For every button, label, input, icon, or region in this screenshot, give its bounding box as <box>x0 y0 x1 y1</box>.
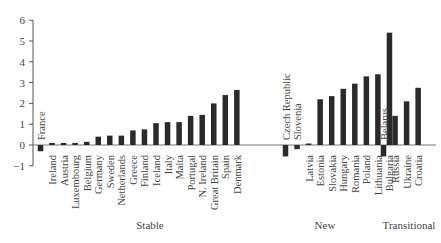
y-tick-label: 0 <box>20 139 26 151</box>
y-tick-label: −1 <box>13 160 25 172</box>
y-tick-label: 1 <box>20 118 26 130</box>
category-label: Belgium <box>82 155 93 191</box>
bar <box>38 145 44 151</box>
bar <box>211 103 217 145</box>
category-label: Sweden <box>105 154 116 188</box>
bar <box>49 143 55 145</box>
category-label: Slovakia <box>327 155 338 192</box>
category-label: Ukraine <box>402 155 413 189</box>
y-tick-label: 3 <box>20 77 26 89</box>
y-tick-label: 5 <box>20 35 26 47</box>
bar <box>392 116 398 145</box>
category-label: N. Ireland <box>197 154 208 197</box>
bar-chart: −10123456FranceIrelandAustriaLuxembourgB… <box>0 0 441 243</box>
bar <box>107 136 113 145</box>
bar <box>153 123 159 145</box>
category-label: Austria <box>59 155 70 186</box>
bar <box>119 136 125 145</box>
category-label: Italy <box>163 154 174 174</box>
bar <box>165 122 171 145</box>
category-label: France <box>36 111 47 140</box>
bar <box>176 122 182 145</box>
bar <box>364 76 370 145</box>
bar <box>84 142 90 145</box>
category-label: Netherlands <box>116 155 127 206</box>
bar <box>352 84 358 145</box>
bar <box>283 145 289 156</box>
category-label: Hungary <box>338 154 349 191</box>
category-label: Russia <box>390 155 401 183</box>
bar <box>317 99 323 145</box>
bar <box>130 130 136 145</box>
group-label: Stable <box>136 219 164 231</box>
category-label: Germany <box>93 154 104 194</box>
y-tick-label: 6 <box>20 14 26 26</box>
category-label: Spain <box>220 154 231 179</box>
category-label: Croatia <box>413 155 424 186</box>
bar <box>294 145 300 149</box>
bar <box>61 143 67 145</box>
category-label: Lithuania <box>373 155 384 196</box>
category-label: Poland <box>361 154 372 184</box>
y-tick-label: 2 <box>20 97 26 109</box>
bar <box>306 144 312 146</box>
bar <box>234 90 240 145</box>
bar <box>142 129 148 145</box>
category-label: Estonia <box>315 155 326 187</box>
group-label: Transitional <box>383 219 436 231</box>
category-label: Belarus <box>379 108 390 140</box>
category-label: Portugal <box>186 155 197 191</box>
category-label: Romania <box>350 155 361 193</box>
y-tick-label: 4 <box>20 56 26 68</box>
category-label: Luxembourg <box>70 154 81 209</box>
category-label: Denmark <box>232 154 243 194</box>
category-label: Czech Republic <box>281 73 292 140</box>
bar <box>329 96 335 145</box>
category-label: Greece <box>128 155 139 185</box>
bar <box>188 116 194 145</box>
bar <box>199 115 205 145</box>
category-label: Iceland <box>151 154 162 186</box>
category-label: Finland <box>139 154 150 187</box>
bar <box>223 95 229 145</box>
category-label: Ireland <box>47 154 58 184</box>
bar <box>404 101 410 145</box>
bar <box>341 89 347 145</box>
bar <box>415 88 421 145</box>
category-label: Slovenia <box>292 103 303 140</box>
bar <box>72 143 78 145</box>
group-label: New <box>315 219 336 231</box>
category-label: Great Britain <box>209 154 220 210</box>
category-label: Latvia <box>304 155 315 182</box>
bar <box>381 145 387 156</box>
category-label: Malta <box>174 155 185 180</box>
bar <box>96 137 102 145</box>
